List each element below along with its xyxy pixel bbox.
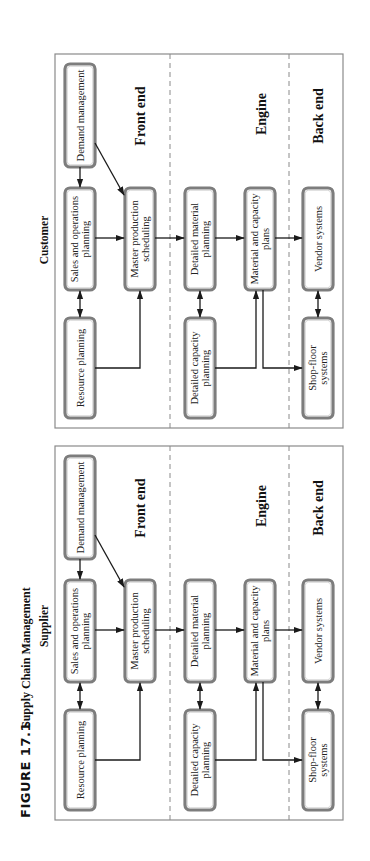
- box-shop-floor-systems: Shop-floorsystems: [303, 318, 333, 418]
- box-detailed-capacity-planning: Detailed capacityplanning: [185, 318, 215, 418]
- box-label: Sales and operations: [69, 196, 80, 282]
- arrow-mcp-to-shopfloor: [263, 290, 302, 368]
- section-label-back-end: Back end: [311, 480, 326, 536]
- box-label: planning: [80, 220, 91, 257]
- box-sales-operations-planning: Sales and operationsplanning: [65, 580, 95, 682]
- arrow-dcp-to-mcp: [215, 683, 256, 760]
- box-material-capacity-plans: Material and capacityplans: [245, 580, 275, 682]
- box-label: Material and capacity: [249, 193, 260, 285]
- box-label: Resource planning: [75, 328, 86, 407]
- panel-title-supplier: Supplier: [38, 605, 51, 647]
- box-label: planning: [80, 612, 91, 649]
- box-label: Detailed capacity: [189, 723, 200, 797]
- box-label: Vendor systems: [313, 206, 324, 272]
- box-label: Detailed capacity: [189, 331, 200, 405]
- box-label: Demand management: [75, 70, 86, 162]
- box-label: Sales and operations: [69, 588, 80, 674]
- box-label: plans: [260, 228, 271, 250]
- panel-title-customer: Customer: [38, 216, 50, 265]
- box-label: Master production: [129, 200, 140, 278]
- arrow-resource-to-mps: [95, 683, 140, 760]
- box-detailed-capacity-planning: Detailed capacityplanning: [185, 710, 215, 810]
- box-label: scheduling: [140, 608, 151, 654]
- box-vendor-systems: Vendor systems: [303, 188, 333, 290]
- arrow-demand-to-mps: [95, 535, 124, 587]
- box-resource-planning: Resource planning: [65, 710, 95, 810]
- section-label-front-end: Front end: [133, 478, 148, 537]
- box-demand-management: Demand management: [65, 456, 95, 559]
- box-vendor-systems: Vendor systems: [303, 580, 333, 682]
- box-shop-floor-systems: Shop-floorsystems: [303, 710, 333, 810]
- box-label: plans: [260, 620, 271, 642]
- section-label-front-end: Front end: [133, 86, 148, 145]
- supply-chain-diagram: FIGURE 17.1 Supply Chain Management Cust…: [0, 0, 370, 861]
- box-detailed-material-planning: Detailed materialplanning: [185, 188, 215, 290]
- box-label: planning: [200, 612, 211, 649]
- arrow-dcp-to-mcp: [215, 291, 256, 368]
- arrow-demand-to-mps: [95, 143, 124, 195]
- box-label: systems: [318, 351, 329, 384]
- figure-title: Supply Chain Management: [19, 587, 33, 728]
- section-label-engine: Engine: [254, 485, 269, 527]
- box-demand-management: Demand management: [65, 64, 95, 167]
- box-label: Detailed material: [189, 595, 200, 668]
- box-label: Shop-floor: [307, 345, 318, 391]
- supplier-panel: Front endEngineBack endDemand management…: [55, 446, 343, 820]
- box-label: planning: [200, 349, 211, 386]
- box-label: Resource planning: [75, 720, 86, 799]
- box-label: Vendor systems: [313, 598, 324, 664]
- box-master-production-scheduling: Master productionscheduling: [125, 580, 155, 682]
- arrow-resource-to-mps: [95, 291, 140, 368]
- box-material-capacity-plans: Material and capacityplans: [245, 188, 275, 290]
- box-sales-operations-planning: Sales and operationsplanning: [65, 188, 95, 290]
- section-label-engine: Engine: [254, 93, 269, 135]
- box-label: Demand management: [75, 462, 86, 554]
- figure-number: FIGURE 17.1: [18, 722, 33, 818]
- box-label: Shop-floor: [307, 737, 318, 783]
- box-label: Master production: [129, 592, 140, 670]
- customer-panel: Front endEngineBack endDemand management…: [55, 54, 343, 428]
- box-label: Material and capacity: [249, 585, 260, 677]
- box-label: scheduling: [140, 216, 151, 262]
- section-label-back-end: Back end: [311, 88, 326, 144]
- box-label: planning: [200, 220, 211, 257]
- figure-caption: FIGURE 17.1 Supply Chain Management: [18, 587, 33, 818]
- box-label: planning: [200, 741, 211, 778]
- box-master-production-scheduling: Master productionscheduling: [125, 188, 155, 290]
- arrow-mcp-to-shopfloor: [263, 682, 302, 760]
- box-resource-planning: Resource planning: [65, 318, 95, 418]
- box-label: Detailed material: [189, 203, 200, 276]
- box-detailed-material-planning: Detailed materialplanning: [185, 580, 215, 682]
- box-label: systems: [318, 743, 329, 776]
